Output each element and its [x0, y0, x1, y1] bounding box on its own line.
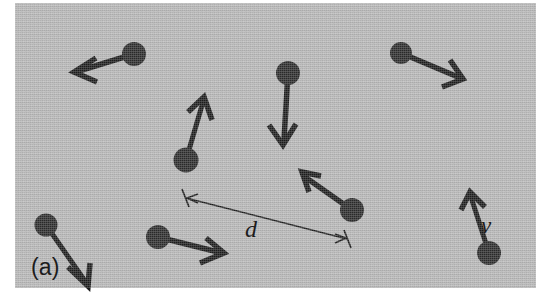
particle-dot — [390, 42, 412, 64]
particle-dot — [276, 61, 300, 85]
figure-panel-a: (a) d v — [0, 0, 536, 303]
velocity-label: v — [481, 214, 491, 237]
particle-dot — [35, 214, 58, 237]
particle-dot — [122, 42, 146, 66]
figure-background — [15, 3, 536, 288]
particle-dot — [340, 198, 364, 222]
figure-svg — [0, 0, 536, 303]
distance-label: d — [245, 217, 257, 241]
particle-dot — [477, 241, 501, 265]
particle-dot — [174, 148, 199, 173]
panel-label: (a) — [31, 256, 60, 279]
particle-dot — [146, 225, 170, 249]
